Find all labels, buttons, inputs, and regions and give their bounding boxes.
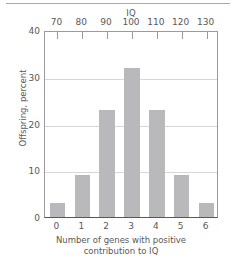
x-axis-tick-labels: 0123456 (44, 221, 218, 235)
secondary-axis-tick-label-110: 110 (143, 17, 169, 27)
y-tick-label-0: 0 (0, 214, 40, 223)
secondary-axis-tick-label-130: 130 (193, 17, 219, 27)
x-tick-label-2: 2 (94, 221, 118, 231)
x-tick-label-3: 3 (119, 221, 143, 231)
secondary-axis-tick-label-120: 120 (168, 17, 194, 27)
x-tick-label-0: 0 (44, 221, 68, 231)
secondary-axis-tick-label-90: 90 (93, 17, 119, 27)
bars-group (45, 32, 217, 217)
x-tick-label-4: 4 (144, 221, 168, 231)
bar-3 (124, 68, 139, 217)
x-axis-title-line-2: contribution to IQ (18, 246, 224, 257)
x-axis-title: Number of genes with positive contributi… (18, 235, 224, 257)
bar-0 (50, 203, 65, 218)
bar-4 (149, 110, 164, 217)
bar-5 (174, 175, 189, 217)
secondary-axis-tick-label-80: 80 (68, 17, 94, 27)
x-tick-label-6: 6 (194, 221, 218, 231)
secondary-axis-tick-label-70: 70 (43, 17, 69, 27)
figure-container: IQ 708090100110120130 010203040 Offsprin… (0, 0, 236, 265)
x-tick-label-5: 5 (169, 221, 193, 231)
secondary-axis-tick-label-100: 100 (118, 17, 144, 27)
bar-2 (99, 110, 114, 217)
x-tick-label-1: 1 (69, 221, 93, 231)
header-divider-rule (6, 3, 230, 4)
plot-area (44, 31, 218, 218)
x-axis-title-line-1: Number of genes with positive (18, 235, 224, 246)
y-axis-title: Offspring, percent (18, 33, 28, 183)
bar-6 (199, 203, 214, 218)
bar-1 (75, 175, 90, 217)
